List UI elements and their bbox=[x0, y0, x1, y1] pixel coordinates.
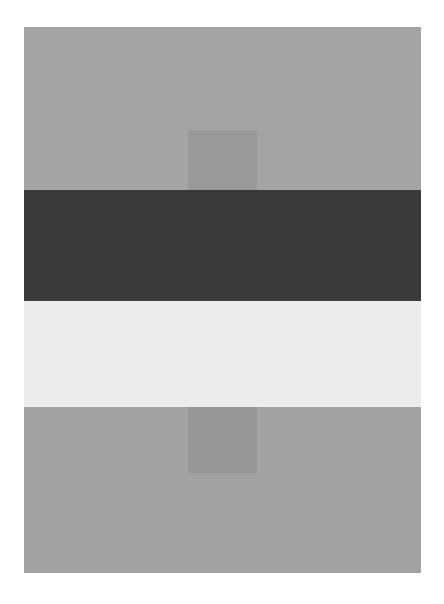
light-band bbox=[24, 301, 421, 407]
lower-square bbox=[188, 407, 257, 473]
illusion-figure bbox=[24, 27, 421, 573]
upper-square bbox=[188, 130, 257, 190]
dark-band bbox=[24, 190, 421, 301]
